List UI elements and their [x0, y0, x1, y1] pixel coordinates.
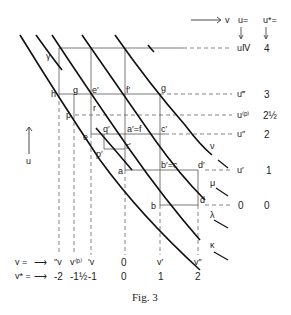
- svg-text:v⁽ᵖ⁾: v⁽ᵖ⁾: [70, 257, 82, 267]
- svg-text:v* =: v* =: [15, 271, 31, 281]
- point-d-prime: d′: [198, 160, 205, 170]
- svg-text:v =: v =: [15, 257, 27, 267]
- u-axis-label: u: [26, 156, 31, 166]
- svg-text:⟶: ⟶: [34, 271, 47, 281]
- point-g-left: g: [73, 85, 78, 95]
- u-equals-header: u=: [238, 15, 248, 25]
- vstar-row: v* = ⟶ -2 -1½ -1 0 1 2: [15, 271, 201, 282]
- svg-text:1: 1: [158, 271, 164, 282]
- figure-canvas: v u u= u*=: [0, 0, 291, 315]
- point-f-prime: f′: [126, 85, 131, 95]
- point-b: b: [151, 201, 156, 211]
- u-level-labels: uⅣ 4 u‴ 3 u⁽ᵖ⁾ 2½ u″ 2 u′ 1 0 0: [237, 43, 278, 211]
- svg-text:0: 0: [121, 271, 127, 282]
- svg-text:0: 0: [264, 200, 270, 211]
- svg-text:″v: ″v: [54, 257, 62, 267]
- svg-text:0: 0: [121, 257, 127, 268]
- v-axis-label: v: [225, 15, 230, 25]
- svg-text:2: 2: [195, 271, 201, 282]
- v-row: v = ⟶ ″v v⁽ᵖ⁾ ′v 0 v′ v″: [15, 257, 203, 268]
- svg-text:-2: -2: [54, 271, 63, 282]
- curve-label-lambda: λ: [210, 210, 215, 220]
- svg-text:-1: -1: [88, 271, 97, 282]
- svg-text:u⁽ᵖ⁾: u⁽ᵖ⁾: [237, 110, 249, 120]
- point-c-prime: c′: [161, 124, 168, 134]
- figure-caption: Fig. 3: [132, 291, 158, 303]
- point-g-right: g: [161, 83, 166, 93]
- point-p: p: [66, 110, 71, 120]
- svg-text:1: 1: [266, 165, 272, 176]
- svg-text:4: 4: [264, 43, 270, 54]
- point-e: e: [83, 132, 88, 142]
- curve-nu: [115, 35, 212, 155]
- curve-label-nu: ν: [210, 141, 215, 151]
- curve-label-mu: μ: [210, 178, 215, 188]
- svg-text:0: 0: [238, 200, 244, 211]
- svg-text:-1½: -1½: [70, 271, 88, 282]
- svg-text:′v: ′v: [88, 257, 95, 267]
- svg-text:v′: v′: [157, 257, 164, 267]
- svg-text:3: 3: [264, 89, 270, 100]
- point-a-prime-eq-f: a′=f: [127, 124, 142, 134]
- svg-text:u″: u″: [237, 129, 246, 139]
- point-d: d: [200, 195, 205, 205]
- svg-text:⟶: ⟶: [34, 257, 47, 267]
- point-r-prime: r′: [126, 141, 131, 151]
- svg-text:u‴: u‴: [237, 89, 246, 99]
- characteristic-curves: [20, 35, 212, 270]
- curve-mu: [82, 35, 205, 200]
- point-p-prime: p′: [96, 149, 103, 159]
- svg-text:v″: v″: [194, 257, 203, 267]
- curve-kappa: [20, 35, 200, 270]
- characteristics-diagram: v u u= u*=: [0, 0, 291, 315]
- svg-text:2: 2: [264, 129, 270, 140]
- point-a: a: [118, 166, 123, 176]
- ustar-equals-header: u*=: [263, 15, 277, 25]
- svg-text:2½: 2½: [263, 110, 278, 121]
- point-q-prime: q′: [103, 124, 110, 134]
- point-e-prime: e′: [92, 85, 99, 95]
- point-b-prime-eq-c: b′=c: [161, 160, 178, 170]
- curve-label-gamma: γ: [46, 51, 51, 61]
- point-r: r: [93, 103, 96, 113]
- point-h: h: [51, 89, 56, 99]
- svg-text:uⅣ: uⅣ: [237, 43, 251, 53]
- curve-top-right: [148, 45, 154, 52]
- svg-text:u′: u′: [237, 165, 244, 175]
- curve-label-kappa: κ: [210, 240, 215, 250]
